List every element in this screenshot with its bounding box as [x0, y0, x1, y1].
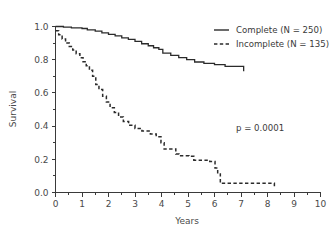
series-curve-2: [56, 31, 275, 187]
series-curve-1: [56, 27, 244, 72]
x-axis-title: Years: [174, 216, 199, 226]
y-tick-label: 1.0: [34, 22, 49, 32]
x-tick-label: 3: [132, 199, 138, 209]
x-tick-label: 1: [79, 199, 85, 209]
y-tick-label: 0.2: [34, 155, 48, 165]
y-axis-group: 0.00.20.40.60.81.0: [34, 22, 55, 198]
x-axis-group: 012345678910: [53, 193, 327, 209]
legend-label-1: Complete (N = 250): [236, 25, 322, 35]
y-tick-label: 0.4: [34, 121, 49, 131]
x-tick-label: 9: [291, 199, 297, 209]
x-tick-label: 7: [238, 199, 244, 209]
survival-chart-figure: 0.00.20.40.60.81.0 012345678910 Years Su…: [0, 0, 335, 233]
chart-legend: Complete (N = 250)Incomplete (N = 135): [214, 25, 329, 49]
x-tick-label: 10: [315, 199, 327, 209]
y-tick-label: 0.0: [34, 188, 49, 198]
pvalue-annotation: p = 0.0001: [236, 123, 284, 133]
x-tick-label: 2: [106, 199, 112, 209]
legend-label-2: Incomplete (N = 135): [236, 39, 329, 49]
x-tick-label: 4: [159, 199, 165, 209]
x-tick-label: 6: [212, 199, 218, 209]
y-tick-label: 0.8: [34, 55, 49, 65]
y-axis-tick-labels: 0.00.20.40.60.81.0: [34, 22, 49, 198]
x-axis-tick-labels: 012345678910: [53, 199, 327, 209]
data-series-group: [56, 27, 275, 187]
y-axis-title: Survival: [8, 91, 18, 127]
x-tick-label: 0: [53, 199, 59, 209]
survival-plot-svg: 0.00.20.40.60.81.0 012345678910 Years Su…: [0, 0, 335, 233]
x-tick-label: 8: [265, 199, 271, 209]
x-tick-label: 5: [185, 199, 191, 209]
y-tick-label: 0.6: [34, 88, 49, 98]
